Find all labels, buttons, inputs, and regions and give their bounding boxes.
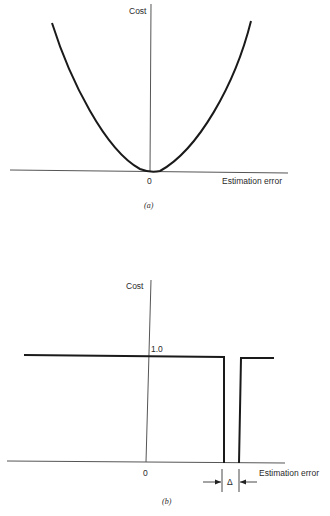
level-tick-label: 1.0: [151, 344, 163, 354]
y-axis-a: [150, 4, 151, 172]
y-axis-b: [146, 280, 151, 462]
figure-canvas: Cost 0 Estimation error (a) Cost 1.0 0 E…: [0, 0, 330, 516]
delta-right-arrowhead-icon: [240, 480, 246, 485]
cost-level-left-segment: [24, 355, 224, 463]
y-axis-label-b: Cost: [126, 281, 144, 291]
x-axis-label-b: Estimation error: [259, 468, 319, 478]
y-axis-label-a: Cost: [129, 6, 147, 16]
caption-b: (b): [162, 497, 172, 506]
delta-dimension: Δ: [203, 469, 257, 492]
panel-a: Cost 0 Estimation error (a): [10, 4, 288, 210]
delta-left-arrowhead-icon: [215, 480, 221, 485]
panel-b: Cost 1.0 0 Estimation error Δ (b): [7, 280, 319, 506]
x-axis-label-a: Estimation error: [222, 176, 282, 186]
cost-level-right-segment: [239, 358, 274, 463]
origin-tick-a: 0: [147, 176, 152, 186]
delta-label: Δ: [227, 477, 233, 487]
origin-tick-b: 0: [143, 468, 148, 478]
quadratic-cost-curve: [52, 21, 251, 172]
caption-a: (a): [144, 201, 154, 210]
